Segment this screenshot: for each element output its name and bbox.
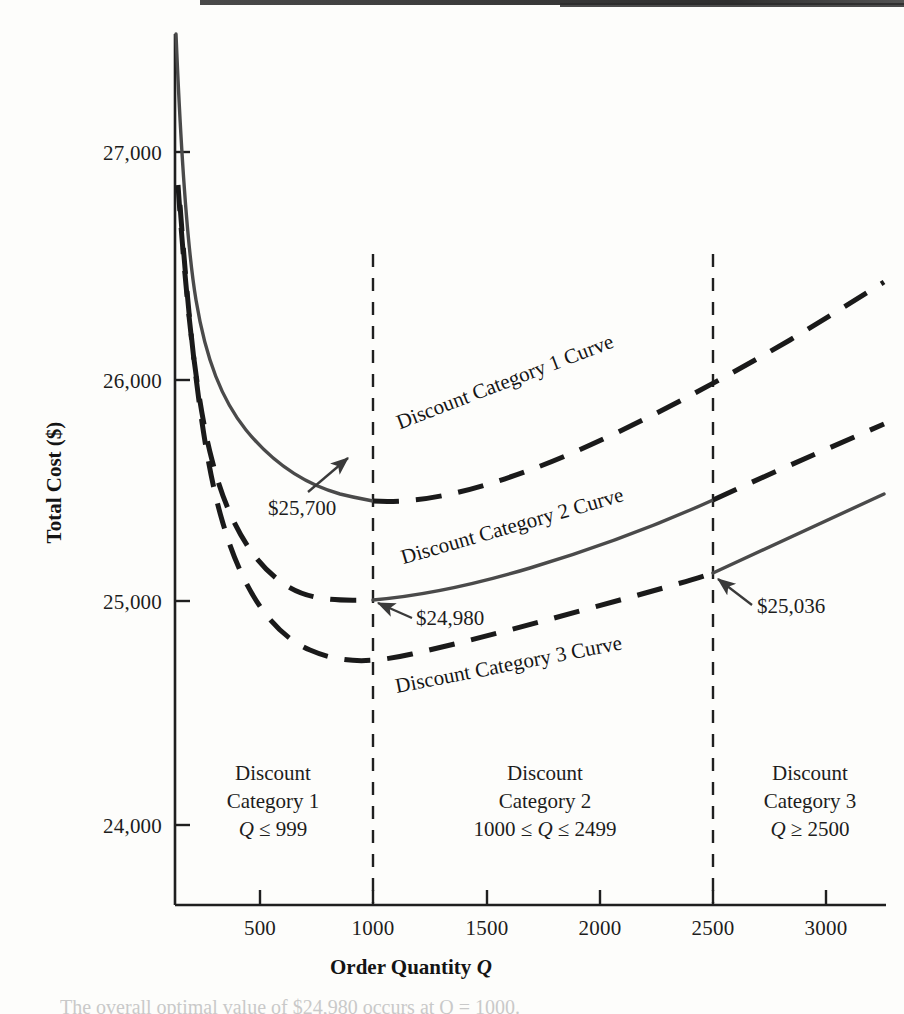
region-1-line1: Discount xyxy=(198,760,348,788)
x-tick-label-2000: 2000 xyxy=(545,916,655,941)
curve-category-2-dashed-high xyxy=(713,424,884,500)
region-2-condition: 1000 ≤ Q ≤ 2499 xyxy=(455,816,635,844)
arrow-25700 xyxy=(308,458,348,492)
arrow-25036 xyxy=(718,579,752,605)
region-3-line1: Discount xyxy=(735,760,885,788)
callout-25700: $25,700 xyxy=(268,496,336,521)
y-axis-title: Total Cost ($) xyxy=(42,383,67,583)
region-label-category-1: Discount Category 1 Q ≤ 999 xyxy=(198,760,348,844)
region-label-category-3: Discount Category 3 Q ≥ 2500 xyxy=(735,760,885,844)
region-1-line2: Category 1 xyxy=(198,788,348,816)
x-tick-label-3000: 3000 xyxy=(771,916,881,941)
region-2-line1: Discount xyxy=(455,760,635,788)
y-tick-label-24000: 24,000 xyxy=(52,814,162,839)
x-tick-label-1500: 1500 xyxy=(432,916,542,941)
curve-category-3-solid xyxy=(713,494,884,573)
curve-category-3-dashed xyxy=(180,205,713,661)
x-axis-ticks xyxy=(260,890,826,905)
region-1-relation: ≤ 999 xyxy=(254,817,308,841)
x-tick-label-2500: 2500 xyxy=(658,916,768,941)
callout-25036: $25,036 xyxy=(757,594,825,619)
x-axis-title: Order Quantity Q xyxy=(330,955,492,980)
annotation-arrows xyxy=(308,458,752,618)
region-1-condition: Q ≤ 999 xyxy=(198,816,348,844)
curve-category-2-dashed-low xyxy=(178,185,373,600)
y-tick-label-27000: 27,000 xyxy=(52,141,162,166)
arrow-24980 xyxy=(378,603,412,618)
region-1-variable: Q xyxy=(239,817,254,841)
region-3-variable: Q xyxy=(770,817,785,841)
callout-24980: $24,980 xyxy=(416,606,484,631)
y-tick-label-25000: 25,000 xyxy=(52,590,162,615)
region-2-relation: ≤ 2499 xyxy=(553,817,617,841)
figure-canvas: 27,000 26,000 25,000 24,000 500 1000 150… xyxy=(0,0,904,1014)
y-tick-label-26000: 26,000 xyxy=(52,369,162,394)
region-3-line2: Category 3 xyxy=(735,788,885,816)
x-tick-label-1000: 1000 xyxy=(318,916,428,941)
x-axis-title-text: Order Quantity xyxy=(330,955,477,979)
region-2-line2: Category 2 xyxy=(455,788,635,816)
caption-partial-text: The overall optimal value of $24,980 occ… xyxy=(60,996,760,1014)
x-tick-label-500: 500 xyxy=(205,916,315,941)
region-3-condition: Q ≥ 2500 xyxy=(735,816,885,844)
region-2-variable: Q xyxy=(537,817,552,841)
region-3-relation: ≥ 2500 xyxy=(786,817,850,841)
region-label-category-2: Discount Category 2 1000 ≤ Q ≤ 2499 xyxy=(455,760,635,844)
region-2-relation-pre: 1000 ≤ xyxy=(473,817,537,841)
x-axis-title-variable: Q xyxy=(477,955,492,979)
